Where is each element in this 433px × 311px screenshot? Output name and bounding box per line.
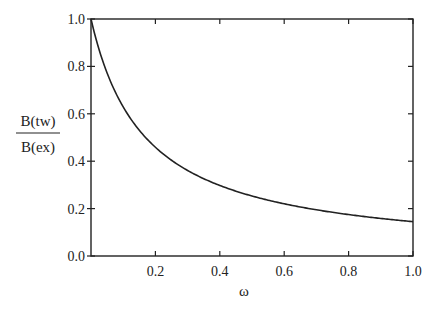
x-tick-label: 0.8 (340, 264, 358, 279)
data-curve (91, 19, 413, 222)
y-tick-label: 0.6 (68, 107, 86, 122)
x-axis-title: ω (239, 283, 249, 299)
y-tick-label: 0.8 (68, 59, 86, 74)
x-tick-label: 0.6 (275, 264, 293, 279)
y-tick-label: 0.0 (68, 249, 86, 264)
axis-ticks (87, 19, 413, 256)
line-chart: 0.20.40.60.81.0 0.00.20.40.60.81.0 ω B(t… (0, 0, 433, 311)
x-tick-label: 0.4 (211, 264, 229, 279)
y-tick-label: 0.2 (68, 202, 86, 217)
y-tick-labels: 0.00.20.40.60.81.0 (68, 12, 86, 264)
y-tick-label: 1.0 (68, 12, 86, 27)
y-tick-label: 0.4 (68, 154, 86, 169)
y-axis-title-denominator: B(ex) (21, 139, 55, 156)
plot-frame (91, 19, 413, 256)
x-tick-label: 0.2 (147, 264, 165, 279)
x-tick-label: 1.0 (404, 264, 422, 279)
y-axis-title-numerator: B(tw) (21, 113, 56, 130)
x-tick-labels: 0.20.40.60.81.0 (147, 264, 422, 279)
